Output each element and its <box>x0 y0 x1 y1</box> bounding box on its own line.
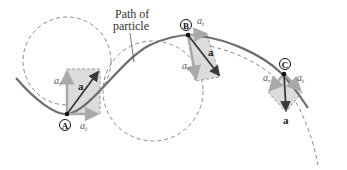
point-b-dot <box>186 33 191 38</box>
ar-label-a: ar <box>54 75 62 88</box>
point-c-label: C <box>282 60 289 70</box>
point-a-label: A <box>62 121 69 131</box>
a-label-b: a <box>208 46 214 58</box>
at-label-b: at <box>197 15 205 28</box>
curvature-circle-b <box>103 41 203 141</box>
at-label-c: at <box>297 72 305 85</box>
caption-line-2: particle <box>113 19 149 33</box>
a-label-c: a <box>283 114 289 126</box>
ar-label-b: ar <box>182 60 190 73</box>
point-c-dot <box>282 72 287 77</box>
at-label-a: at <box>80 120 88 133</box>
point-b-label: B <box>183 21 189 31</box>
tangential-accel-arrow-b <box>188 34 206 35</box>
point-a-dot <box>65 112 70 117</box>
acceleration-components-diagram: Path of particle A ar at a B at ar a C a… <box>0 0 347 170</box>
a-label-a: a <box>78 80 84 92</box>
ar-label-c: ar <box>263 72 271 85</box>
